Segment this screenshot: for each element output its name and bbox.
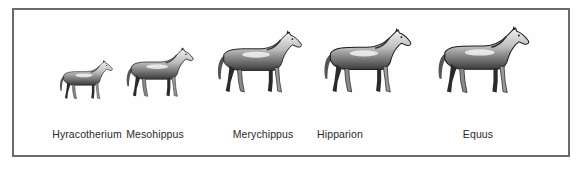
horse-illustration-merychippus bbox=[212, 30, 310, 99]
horse-label: Mesohippus bbox=[126, 128, 184, 140]
horse-label: Hipparion bbox=[317, 128, 363, 140]
horse-label: Hyracotherium bbox=[52, 128, 122, 140]
horse-illustration-equus bbox=[432, 26, 538, 100]
horse-icon bbox=[318, 28, 420, 99]
horse-illustration-hyracotherium bbox=[56, 60, 118, 103]
horse-icon bbox=[122, 47, 200, 102]
horse-icon bbox=[212, 30, 310, 99]
horse-icon bbox=[56, 60, 118, 103]
horse-illustration-mesohippus bbox=[122, 47, 200, 102]
horse-label: Equus bbox=[463, 128, 493, 140]
horse-illustration-hipparion bbox=[318, 28, 420, 99]
horse-icon bbox=[432, 26, 538, 100]
horse-label: Merychippus bbox=[233, 128, 294, 140]
